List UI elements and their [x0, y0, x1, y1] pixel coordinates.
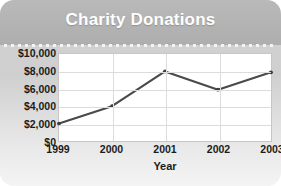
gridline-vertical: [166, 54, 167, 141]
x-axis-tick-label: 1999: [46, 143, 69, 155]
x-axis-tick-label: 2000: [100, 143, 123, 155]
y-axis-tick-label: $2,000: [0, 118, 56, 130]
plot-area: [58, 53, 272, 142]
x-axis-title: Year: [58, 160, 272, 172]
data-line: [59, 71, 271, 123]
y-axis-labels: $0$2,000$4,000$6,000$8,000$10,000: [0, 0, 56, 186]
gridline-vertical: [220, 54, 221, 141]
data-markers: [57, 70, 273, 126]
y-axis-tick-label: $4,000: [0, 100, 56, 112]
x-axis-tick-label: 2001: [153, 143, 176, 155]
gridline-horizontal: [59, 125, 271, 126]
gridline-horizontal: [59, 107, 271, 108]
gridline-horizontal: [59, 90, 271, 91]
chart-card: Charity Donations $0$2,000$4,000$6,000$8…: [0, 0, 281, 186]
x-axis-tick-label: 2003: [260, 143, 281, 155]
y-axis-tick-label: $10,000: [0, 47, 56, 59]
x-axis-tick-label: 2002: [207, 143, 230, 155]
y-axis-tick-label: $6,000: [0, 83, 56, 95]
line-series: [59, 54, 271, 141]
gridline-vertical: [113, 54, 114, 141]
y-axis-tick-label: $8,000: [0, 65, 56, 77]
gridline-horizontal: [59, 72, 271, 73]
x-axis-labels: 19992000200120022003: [58, 143, 272, 159]
